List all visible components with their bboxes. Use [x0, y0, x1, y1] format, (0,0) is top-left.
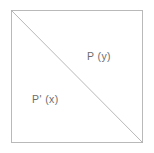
region-label-upper-right: P (y) [87, 50, 111, 62]
bounding-square [11, 10, 143, 143]
figure-canvas: P (y) P' (x) [0, 0, 154, 153]
region-label-lower-left: P' (x) [32, 93, 59, 105]
